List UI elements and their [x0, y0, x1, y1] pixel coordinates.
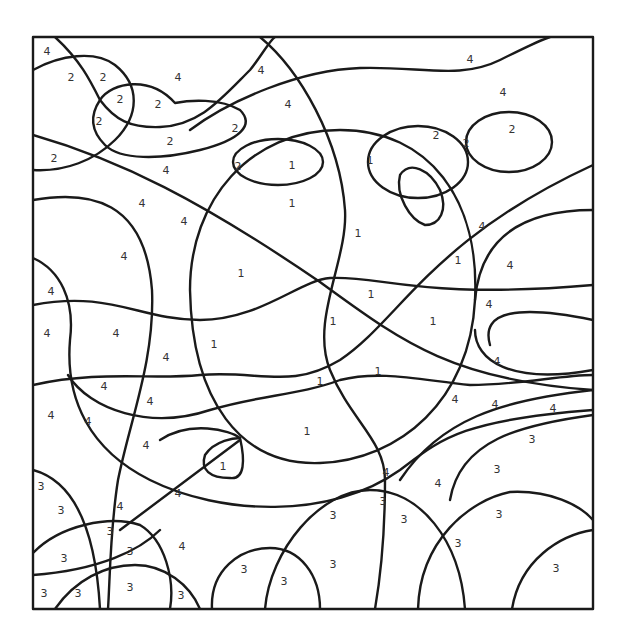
region-number: 3	[330, 558, 337, 571]
region-number: 4	[500, 86, 507, 99]
region-number: 4	[143, 439, 150, 452]
region-number: 1	[317, 375, 324, 388]
region-number: 4	[44, 327, 51, 340]
region-number: 4	[467, 53, 474, 66]
region-number: 1	[220, 460, 227, 473]
region-number: 4	[486, 298, 493, 311]
region-number: 4	[163, 164, 170, 177]
region-number: 4	[163, 351, 170, 364]
region-number: 4	[179, 540, 186, 553]
region-number: 1	[430, 315, 437, 328]
region-number: 4	[175, 71, 182, 84]
region-number: 3	[41, 587, 48, 600]
region-number: 4	[101, 380, 108, 393]
region-number: 1	[289, 159, 296, 172]
region-number: 4	[550, 402, 557, 415]
region-number: 2	[235, 160, 242, 173]
region-number: 2	[51, 152, 58, 165]
region-number: 2	[433, 129, 440, 142]
region-number: 4	[452, 393, 459, 406]
region-number: 3	[330, 509, 337, 522]
region-number: 3	[455, 537, 462, 550]
region-number: 2	[155, 98, 162, 111]
region-number: 3	[38, 480, 45, 493]
region-number: 4	[147, 395, 154, 408]
region-number: 2	[509, 123, 516, 136]
region-number: 1	[367, 154, 374, 167]
region-number: 4	[383, 466, 390, 479]
region-number: 3	[61, 552, 68, 565]
region-number: 4	[479, 220, 486, 233]
region-number: 2	[68, 71, 75, 84]
region-number: 3	[553, 562, 560, 575]
region-number: 4	[117, 500, 124, 513]
region-number: 1	[355, 227, 362, 240]
region-number: 3	[281, 575, 288, 588]
region-number: 4	[494, 355, 501, 368]
region-number: 3	[58, 504, 65, 517]
region-number: 4	[285, 98, 292, 111]
region-number: 4	[48, 409, 55, 422]
region-number: 1	[238, 267, 245, 280]
region-number: 3	[127, 581, 134, 594]
region-number: 3	[494, 463, 501, 476]
region-numbers: 4224442224422222221141441441414144411144…	[38, 45, 560, 602]
region-number: 4	[435, 477, 442, 490]
region-number: 4	[181, 215, 188, 228]
region-number: 3	[496, 508, 503, 521]
coloring-page: 4224442224422222221141441441414144411144…	[0, 0, 626, 641]
region-number: 3	[529, 433, 536, 446]
region-number: 1	[455, 254, 462, 267]
region-number: 3	[127, 545, 134, 558]
region-number: 4	[48, 285, 55, 298]
region-number: 3	[178, 589, 185, 602]
region-number: 1	[330, 315, 337, 328]
region-number: 3	[401, 513, 408, 526]
region-number: 4	[507, 259, 514, 272]
region-number: 1	[289, 197, 296, 210]
region-number: 1	[304, 425, 311, 438]
region-number: 4	[175, 487, 182, 500]
region-number: 4	[44, 45, 51, 58]
region-number: 4	[492, 398, 499, 411]
region-number: 2	[167, 135, 174, 148]
region-number: 2	[117, 93, 124, 106]
region-number: 1	[211, 338, 218, 351]
region-number: 1	[368, 288, 375, 301]
region-number: 2	[100, 71, 107, 84]
region-number: 3	[241, 563, 248, 576]
region-number: 2	[463, 137, 470, 150]
region-number: 4	[85, 415, 92, 428]
region-number: 3	[380, 495, 387, 508]
region-number: 2	[232, 122, 239, 135]
region-number: 1	[375, 365, 382, 378]
region-number: 3	[75, 587, 82, 600]
region-number: 4	[113, 327, 120, 340]
region-number: 3	[107, 525, 114, 538]
region-number: 4	[139, 197, 146, 210]
region-number: 4	[121, 250, 128, 263]
region-number: 4	[258, 64, 265, 77]
region-number: 2	[96, 115, 103, 128]
